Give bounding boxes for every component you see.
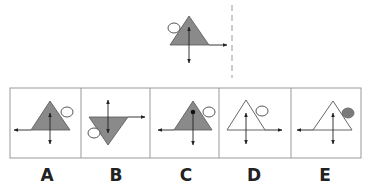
option-d-figure[interactable] bbox=[227, 100, 282, 144]
option-c-label[interactable]: C bbox=[166, 165, 206, 185]
option-b-figure[interactable] bbox=[88, 100, 145, 145]
circle-icon bbox=[168, 23, 180, 33]
dot-icon bbox=[191, 110, 196, 115]
puzzle-canvas bbox=[0, 0, 374, 192]
circle-icon bbox=[256, 106, 268, 116]
option-d-label[interactable]: D bbox=[234, 165, 274, 185]
option-b-label[interactable]: B bbox=[96, 165, 136, 185]
option-a-figure[interactable] bbox=[14, 101, 73, 144]
circle-icon bbox=[88, 128, 100, 138]
filled-circle-icon bbox=[342, 108, 354, 118]
option-c-figure[interactable] bbox=[158, 101, 215, 145]
option-e-label[interactable]: E bbox=[305, 165, 345, 185]
circle-icon bbox=[61, 107, 73, 117]
option-e-figure[interactable] bbox=[297, 101, 354, 144]
reference-figure bbox=[168, 16, 227, 63]
circle-icon bbox=[203, 107, 215, 117]
option-a-label[interactable]: A bbox=[27, 165, 67, 185]
